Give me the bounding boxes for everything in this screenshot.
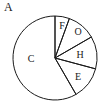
pie-slice-label-o: O xyxy=(74,26,81,37)
pie-chart-figure: A FOHEC xyxy=(0,0,111,112)
pie-slice-label-c: C xyxy=(28,53,35,64)
pie-slice-labels-group: FOHEC xyxy=(28,20,84,82)
pie-slices-group xyxy=(13,16,97,100)
pie-chart-svg: FOHEC xyxy=(0,0,111,112)
pie-slice-label-f: F xyxy=(59,20,65,31)
pie-slice-label-e: E xyxy=(75,71,81,82)
pie-slice-c[interactable] xyxy=(13,16,76,100)
pie-slice-label-h: H xyxy=(76,49,83,60)
